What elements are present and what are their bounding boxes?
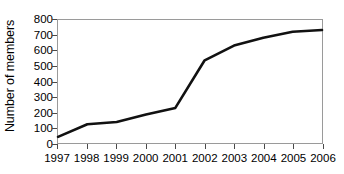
y-axis-tick-mark — [52, 66, 57, 67]
y-axis-tick-label: 200 — [34, 107, 53, 119]
y-axis-tick-label: 700 — [34, 29, 53, 41]
y-axis-tick-mark — [52, 128, 57, 129]
y-axis-tick-mark — [52, 35, 57, 36]
y-axis-tick-mark — [52, 82, 57, 83]
plot-area — [57, 19, 323, 144]
y-axis-title: Number of members — [0, 0, 20, 152]
x-axis-tick-mark — [146, 144, 147, 149]
y-axis-tick-mark — [52, 50, 57, 51]
x-axis-tick-mark — [116, 144, 117, 149]
y-axis-tick-label: 100 — [34, 122, 53, 134]
y-axis-tick-label: 300 — [34, 91, 53, 103]
y-axis-tick-mark — [52, 113, 57, 114]
x-axis-tick-label: 2000 — [133, 152, 159, 164]
y-axis-tick-label: 400 — [34, 76, 53, 88]
y-axis-tick-label: 800 — [34, 13, 53, 25]
x-axis-tick-mark — [205, 144, 206, 149]
x-axis-tick-mark — [57, 144, 58, 149]
x-axis-tick-mark — [264, 144, 265, 149]
x-axis-tick-label: 2004 — [251, 152, 277, 164]
x-axis-tick-label: 2003 — [222, 152, 248, 164]
y-axis-tick-label: 600 — [34, 44, 53, 56]
series-line-number-of-members — [58, 30, 322, 137]
x-axis-tick-mark — [87, 144, 88, 149]
y-axis-title-text: Number of members — [3, 20, 17, 132]
x-axis-tick-mark — [234, 144, 235, 149]
x-axis-tick-mark — [323, 144, 324, 149]
x-axis-tick-label: 1998 — [74, 152, 100, 164]
x-axis-tick-mark — [175, 144, 176, 149]
data-line-svg — [58, 20, 322, 143]
line-chart-figure: Number of members 0100200300400500600700… — [0, 0, 344, 174]
y-axis-tick-label: 500 — [34, 60, 53, 72]
x-axis-tick-label: 2006 — [310, 152, 336, 164]
x-axis-tick-label: 1999 — [103, 152, 129, 164]
y-axis-tick-labels: 0100200300400500600700800 — [18, 13, 53, 144]
x-axis-tick-label: 2001 — [162, 152, 188, 164]
x-axis-tick-label: 2002 — [192, 152, 218, 164]
x-axis-tick-label: 1997 — [44, 152, 70, 164]
x-axis-tick-label: 2005 — [281, 152, 307, 164]
x-axis-tick-mark — [293, 144, 294, 149]
y-axis-tick-mark — [52, 97, 57, 98]
y-axis-tick-mark — [52, 19, 57, 20]
